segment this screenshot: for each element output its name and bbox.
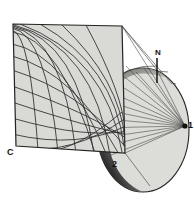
projection-plane [12,24,134,158]
label-tangent-point: 2 [112,160,117,169]
projection-point-marker [182,123,187,128]
label-c: C [7,148,14,157]
label-projection-point: 1 [188,121,193,130]
diagram-canvas [0,0,194,214]
label-north-pole: N [155,49,161,57]
stereographic-projection-figure: C 1 2 N [0,0,194,214]
